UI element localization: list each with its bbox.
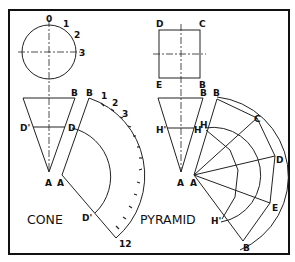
pyramid-title: PYRAMID [140,212,196,227]
cone-pyramid-development-diagram: 0 1 2 3 B D' D A A B 1 2 3 D' 12 CONE D … [0,0,295,262]
cone-dev-label: A [57,178,64,188]
pyramid-front-label: A [177,178,184,188]
cone-dev-label: D' [82,213,92,223]
cone-top-label: 1 [63,19,69,29]
pyramid-dev-label: B [213,88,220,98]
cone-dev-label: 1 [101,91,107,101]
pyramid-top-label: C [199,19,206,29]
pyramid-front-label: B [200,88,207,98]
pyramid-top-label: E [156,80,162,90]
pyramid-dev-label: A [190,178,197,188]
cone-top-label: 2 [74,30,80,40]
cone-top-label: 0 [46,14,52,24]
pyramid-front-view [158,98,203,172]
pyramid-dev-label: E [272,203,278,213]
cone-top-label: 3 [79,48,85,58]
cone-front-label: D [68,123,75,133]
cone-title: CONE [27,212,63,227]
cone-dev-label: 3 [122,109,128,119]
pyramid-front-label: H' [156,125,166,135]
cone-development [62,98,145,238]
cone-dev-label: B [86,88,93,98]
pyramid-top-label: D [156,19,163,29]
pyramid-dev-label: B [243,243,250,253]
pyramid-dev-label: H' [211,216,221,226]
pyramid-dev-label: C [254,114,261,124]
cone-dev-label: 12 [119,239,132,249]
cone-front-label: A [45,178,52,188]
cone-front-label: D' [20,123,30,133]
pyramid-dev-label: D [276,155,283,165]
cone-dev-label: 2 [112,98,118,108]
cone-front-label: B [71,88,78,98]
pyramid-dev-label: H [200,120,208,130]
pyramid-development [194,97,288,250]
pyramid-labels: D C E B B H' H A A B H C D E H' B PYRAMI… [140,19,283,253]
